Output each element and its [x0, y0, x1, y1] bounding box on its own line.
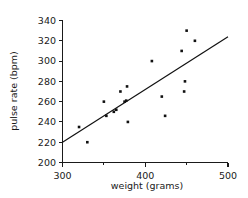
data-point: [125, 99, 128, 102]
data-point: [105, 115, 108, 118]
data-point: [119, 90, 122, 93]
y-tick-label: 300: [38, 55, 56, 66]
data-point: [161, 95, 164, 98]
data-point: [151, 60, 154, 63]
x-axis-tick-labels: 300400500: [53, 170, 237, 181]
data-point: [164, 115, 167, 118]
data-point: [184, 80, 187, 83]
y-tick-label: 280: [38, 76, 56, 87]
data-point: [78, 126, 81, 129]
data-point: [103, 100, 106, 103]
y-tick-label: 200: [38, 157, 56, 168]
x-axis-title: weight (grams): [111, 180, 183, 191]
y-tick-label: 340: [38, 15, 56, 26]
y-axis-title: pulse rate (bpm): [8, 51, 19, 131]
y-tick-label: 260: [38, 96, 56, 107]
data-point: [86, 141, 89, 144]
y-tick-label: 320: [38, 35, 56, 46]
data-point: [194, 39, 197, 42]
trend-line: [63, 37, 229, 142]
chart-canvas: 200220240260280300320340 300400500 weigh…: [0, 0, 248, 198]
data-point: [113, 110, 116, 113]
x-tick-label: 300: [53, 170, 71, 181]
scatter-plot-figure: 200220240260280300320340 300400500 weigh…: [0, 0, 248, 198]
x-tick-label: 500: [219, 170, 237, 181]
y-axis-tick-labels: 200220240260280300320340: [38, 15, 56, 168]
y-tick-label: 240: [38, 116, 56, 127]
data-point: [126, 85, 129, 88]
data-point: [115, 108, 118, 111]
x-axis-ticks: [63, 163, 229, 168]
data-point: [183, 90, 186, 93]
data-point: [127, 121, 130, 124]
data-points-group: [78, 29, 196, 143]
x-tick-label: 400: [136, 170, 154, 181]
data-point: [180, 50, 183, 53]
y-tick-label: 220: [38, 137, 56, 148]
data-point: [185, 29, 188, 32]
